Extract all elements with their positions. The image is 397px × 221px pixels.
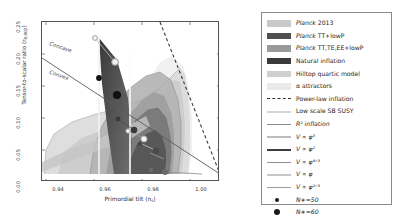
legend-line-low-scale-sb-susy (266, 105, 292, 118)
legend-label: Planck TT,TE,EE+lowP (296, 45, 363, 51)
legend-swatch-planck-tt-lowp (266, 30, 292, 43)
legend-label-rest: TT,TE,EE+lowP (316, 44, 364, 51)
y-axis-label: Tensor-to-scalar ratio (r0.002) (21, 10, 27, 120)
x-tick-label: 0.94 (43, 186, 73, 192)
model-point-filled (138, 142, 143, 147)
model-point-open (93, 36, 98, 41)
legend-item-natural-inflation[interactable]: Natural inflation (266, 55, 387, 68)
model-point-filled (96, 75, 102, 81)
plot-area: 0.25 0.20 0.15 0.10 0.05 0.00 0.94 0.96 … (0, 0, 240, 221)
legend-line-v-phi (266, 168, 292, 181)
legend-label-italic: Planck (296, 32, 316, 39)
legend-label: V ∝ φ² (296, 146, 315, 152)
plot-frame: Concave Convex (41, 21, 219, 181)
x-axis-label-sub: s (151, 198, 153, 203)
legend-label: Power-law inflation (296, 96, 353, 102)
y-tick-label: 0.00 (15, 181, 21, 193)
model-point-open (126, 129, 130, 133)
model-point-open (141, 136, 147, 142)
legend-line-v-phi3 (266, 130, 292, 143)
legend-label: α attractors (296, 83, 332, 89)
legend-label-rest: 2013 (316, 19, 333, 26)
legend-line-v-phi23 (266, 181, 292, 194)
legend-item-planck-2013[interactable]: Planck 2013 (266, 17, 387, 30)
legend-label: V ∝ φ³ (296, 134, 315, 140)
legend-label: Planck 2013 (296, 20, 333, 26)
legend-label: Low scale SB SUSY (296, 108, 353, 114)
model-point-filled (153, 148, 159, 154)
legend-item-v-phi43[interactable]: V ∝ φ⁴ᐟ³ (266, 156, 387, 169)
legend-item-low-scale-sb-susy[interactable]: Low scale SB SUSY (266, 105, 387, 118)
legend-swatch-hilltop-quartic-model (266, 67, 292, 80)
legend-label-italic: Planck (296, 44, 316, 51)
x-tick-label: 0.98 (138, 186, 168, 192)
model-point-filled (131, 127, 138, 134)
y-axis-label-sub: 0.002 (23, 28, 28, 40)
y-axis-label-text: Tensor-to-scalar ratio (r (21, 40, 27, 105)
model-point-filled (162, 169, 168, 175)
legend-label: V ∝ φ²ᐟ³ (296, 184, 320, 190)
legend-swatch-natural-inflation (266, 55, 292, 68)
x-axis-label: Primordial tilt (ns) (41, 196, 219, 202)
legend-label-rest: TT+lowP (316, 32, 344, 39)
legend-item-v-phi3[interactable]: V ∝ φ³ (266, 130, 387, 143)
legend-item-v-phi[interactable]: V ∝ φ (266, 168, 387, 181)
legend-label: V ∝ φ (296, 171, 312, 177)
legend-swatch-planck-ttteee-lowp (266, 42, 292, 55)
legend-dash-power-law-inflation (266, 93, 292, 106)
legend-swatch-planck-2013 (266, 17, 292, 30)
legend-label: R² inflation (296, 121, 330, 127)
legend-swatch-alpha-attractors (266, 80, 292, 93)
model-point-open (112, 59, 119, 66)
legend-item-r2-inflation[interactable]: R² inflation (266, 118, 387, 131)
legend-label: N∗=60 (296, 209, 319, 215)
legend-item-hilltop-quartic-model[interactable]: Hilltop quartic model (266, 67, 387, 80)
legend-line-v-phi43 (266, 156, 292, 169)
legend-item-n-star-60[interactable]: N∗=60 (266, 206, 387, 219)
legend-dot-n-star-50 (266, 193, 292, 206)
legend-item-planck-ttteee-lowp[interactable]: Planck TT,TE,EE+lowP (266, 42, 387, 55)
legend-label: N∗=50 (296, 197, 319, 203)
x-tick-label: 0.96 (90, 186, 120, 192)
inflation-constraints-figure: 0.25 0.20 0.15 0.10 0.05 0.00 0.94 0.96 … (0, 0, 397, 221)
legend-item-n-star-50[interactable]: N∗=50 (266, 193, 387, 206)
legend-item-planck-tt-lowp[interactable]: Planck TT+lowP (266, 30, 387, 43)
legend-label: Hilltop quartic model (296, 71, 360, 77)
legend-item-power-law-inflation[interactable]: Power-law inflation (266, 93, 387, 106)
y-tick-label: 0.05 (15, 149, 21, 161)
legend-item-v-phi2[interactable]: V ∝ φ² (266, 143, 387, 156)
legend-line-v-phi2 (266, 143, 292, 156)
model-point-filled (113, 91, 121, 99)
legend-label-italic: Planck (296, 19, 316, 26)
legend-line-r2-inflation (266, 118, 292, 131)
legend-item-alpha-attractors[interactable]: α attractors (266, 80, 387, 93)
x-axis-label-tail: ) (153, 196, 155, 202)
legend-dot-n-star-60 (266, 206, 292, 219)
legend-label: V ∝ φ⁴ᐟ³ (296, 159, 320, 165)
x-axis-label-text: Primordial tilt (n (104, 196, 151, 202)
model-point-filled (116, 117, 121, 122)
legend-item-v-phi23[interactable]: V ∝ φ²ᐟ³ (266, 181, 387, 194)
legend-label: Planck TT+lowP (296, 33, 344, 39)
legend-label: Natural inflation (296, 58, 345, 64)
model-point-filled (149, 168, 153, 172)
x-tick-label: 1.00 (186, 186, 216, 192)
legend: Planck 2013 Planck TT+lowP Planck TT,TE,… (261, 12, 392, 205)
